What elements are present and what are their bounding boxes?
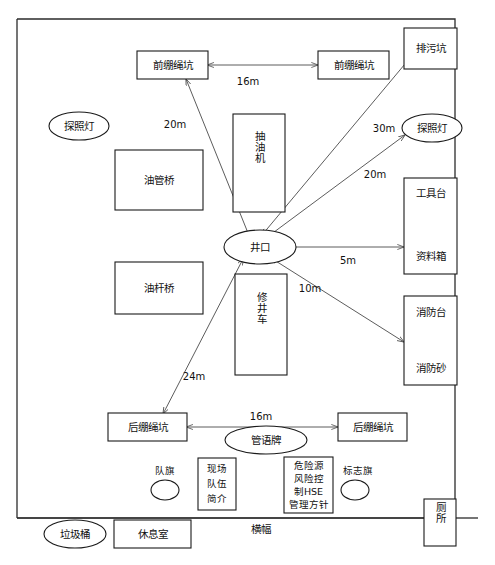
node-label: 垃圾桶	[60, 528, 90, 540]
node-label-line-4: 管理方针	[289, 499, 329, 510]
node-label: 探照灯	[64, 120, 95, 132]
banner-label: 横幅	[251, 523, 271, 535]
node-label: 前绷绳坑	[334, 59, 375, 71]
connector-wellhead-fire-sand	[271, 258, 404, 342]
node-floodlight-right[interactable]: 探照灯	[402, 114, 462, 142]
node-label-line-3: 制HSE	[294, 486, 323, 497]
node-label: 标志旗	[343, 465, 373, 476]
node-workover-rig[interactable]: 修井车	[235, 274, 287, 375]
node-label: 井口	[250, 241, 270, 253]
node-label: 探照灯	[417, 122, 448, 134]
node-wellhead[interactable]: 井口	[224, 230, 296, 264]
node-label: 后绷绳坑	[353, 421, 394, 433]
node-label: 抽油机	[253, 130, 265, 164]
dimension-wellhead-front: 20m	[164, 119, 186, 130]
node-front-guy-pit-left[interactable]: 前绷绳坑	[137, 51, 208, 79]
node-tubing-bridge[interactable]: 油管桥	[115, 150, 203, 210]
node-team-intro-board[interactable]: 现场 队伍 简介	[198, 458, 236, 510]
node-rod-bridge[interactable]: 油杆桥	[115, 262, 203, 314]
node-label-fire-station: 消防台	[416, 306, 446, 318]
node-label-line-2: 风险控	[294, 473, 324, 484]
diagram-canvas: 16m 20m 30m 20m 5m 10m 24m 16m 前绷绳坑 前绷绳坑…	[0, 0, 495, 565]
dimension-wellhead-sewage: 30m	[373, 123, 395, 134]
node-sewage-pit[interactable]: 排污坑	[404, 28, 457, 69]
node-label: 排污坑	[416, 42, 447, 54]
dimension-wellhead-fire: 10m	[299, 283, 321, 294]
node-label-fire-sand: 消防砂	[416, 362, 447, 374]
node-label: 油管桥	[144, 174, 175, 186]
node-pumping-unit[interactable]: 抽油机	[233, 114, 285, 212]
node-toilet[interactable]: 厕所	[424, 499, 456, 546]
node-label: 管语牌	[251, 434, 282, 446]
node-hse-policy-board[interactable]: 危险源 风险控 制HSE 管理方针	[284, 457, 333, 513]
node-label: 修井车	[255, 291, 267, 325]
node-label-line-2: 队伍	[207, 478, 227, 489]
node-label: 前绷绳坑	[153, 59, 194, 71]
node-rest-room[interactable]: 休息室	[114, 520, 191, 548]
dimension-front-pits: 16m	[237, 76, 259, 87]
node-label: 油杆桥	[144, 282, 175, 294]
node-tool-station[interactable]: 工具台 资料箱	[404, 178, 457, 274]
node-rear-guy-pit-left[interactable]: 后绷绳坑	[108, 413, 187, 441]
node-label-line-3: 简介	[207, 493, 227, 504]
node-fire-station[interactable]: 消防台 消防砂	[404, 296, 457, 385]
node-floodlight-left[interactable]: 探照灯	[49, 112, 109, 140]
node-front-guy-pit-right[interactable]: 前绷绳坑	[318, 51, 389, 79]
well-site-layout-diagram: 16m 20m 30m 20m 5m 10m 24m 16m 前绷绳坑 前绷绳坑…	[0, 0, 495, 565]
node-marker-flag[interactable]: 标志旗	[341, 465, 373, 501]
node-slogan-board[interactable]: 管语牌	[225, 426, 307, 454]
node-team-flag[interactable]: 队旗	[151, 465, 179, 501]
connector-wellhead-floodlight-right	[266, 135, 405, 238]
node-label-tool-table: 工具台	[416, 187, 446, 199]
node-trash-bin[interactable]: 垃圾桶	[44, 520, 106, 548]
node-label: 厕所	[434, 502, 446, 524]
node-label-data-box: 资料箱	[416, 250, 446, 262]
node-label: 队旗	[155, 465, 175, 476]
node-label: 后绷绳坑	[128, 421, 169, 433]
node-label-line-1: 危险源	[294, 460, 324, 471]
node-label-line-1: 现场	[207, 463, 227, 474]
node-label: 休息室	[138, 528, 168, 540]
dimension-wellhead-tools: 5m	[340, 255, 356, 266]
node-rear-guy-pit-right[interactable]: 后绷绳坑	[338, 413, 407, 441]
dimension-rear-pits: 16m	[250, 411, 272, 422]
dimension-wellhead-rear: 24m	[183, 371, 205, 382]
dimension-wellhead-light: 20m	[364, 169, 386, 180]
